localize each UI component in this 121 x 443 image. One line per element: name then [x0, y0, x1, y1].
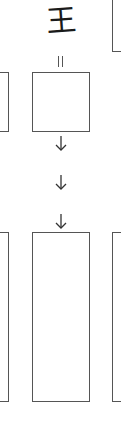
middle-left-box: [0, 72, 9, 132]
arrow-down-icon: [55, 214, 67, 229]
bottom-center-box: [32, 232, 90, 402]
kanji-title: 王: [37, 4, 85, 37]
middle-center-box: [32, 72, 90, 132]
equals-connector-icon: [56, 56, 66, 67]
top-right-box: [112, 0, 121, 52]
arrow-down-icon: [55, 175, 67, 190]
bottom-left-box: [0, 232, 9, 402]
arrow-down-icon: [55, 136, 67, 151]
bottom-right-box: [112, 232, 121, 402]
